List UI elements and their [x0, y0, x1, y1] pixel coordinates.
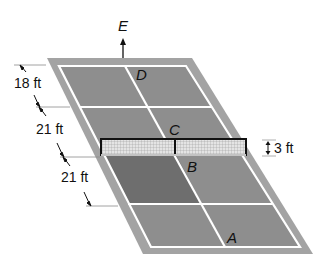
dimension-label-21ft-lower: 21 ft	[61, 169, 88, 185]
label-point-c: C	[169, 121, 180, 138]
arrow-up-icon	[120, 38, 126, 58]
label-point-a: A	[226, 229, 237, 246]
court-playing-area	[59, 66, 300, 247]
label-point-e: E	[118, 17, 129, 34]
net	[101, 139, 246, 156]
court-diagram: E D C B A 18 ft 21 ft 21 ft 3 ft	[0, 0, 318, 278]
dimension-label-21ft-upper: 21 ft	[36, 121, 63, 137]
label-point-b: B	[187, 158, 197, 175]
label-point-d: D	[136, 66, 147, 83]
dimension-label-18ft: 18 ft	[14, 75, 41, 91]
dimension-label-3ft: 3 ft	[274, 140, 294, 156]
